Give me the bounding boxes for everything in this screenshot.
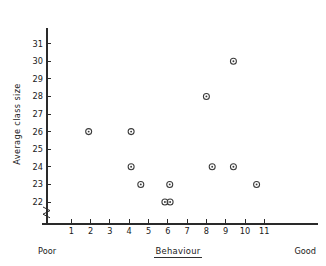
data-point-center-dot bbox=[211, 166, 213, 168]
data-point-center-dot bbox=[256, 183, 258, 185]
y-axis-tick-label: 24 bbox=[33, 162, 43, 172]
data-point-center-dot bbox=[164, 201, 166, 203]
y-axis-title: Average class size bbox=[12, 83, 22, 164]
x-axis-tick-label: 9 bbox=[223, 226, 228, 236]
data-point-center-dot bbox=[140, 183, 142, 185]
x-axis-title: Behaviour bbox=[154, 246, 201, 258]
y-axis-tick-label: 29 bbox=[33, 74, 43, 84]
plot-background bbox=[0, 0, 326, 266]
data-point-center-dot bbox=[88, 131, 90, 133]
y-axis-tick-label: 27 bbox=[33, 109, 43, 119]
x-axis-tick-label: 1 bbox=[69, 226, 74, 236]
x-axis-low-label: Poor bbox=[38, 246, 57, 256]
x-axis-high-label: Good bbox=[294, 246, 316, 256]
x-axis-tick-label: 4 bbox=[127, 226, 132, 236]
x-axis-tick-label: 3 bbox=[107, 226, 112, 236]
x-axis-title-text: Behaviour bbox=[155, 246, 200, 256]
data-point-center-dot bbox=[232, 60, 234, 62]
y-axis-tick-label: 31 bbox=[33, 39, 43, 49]
y-axis-tick-label: 26 bbox=[33, 127, 43, 137]
x-axis-tick-label: 5 bbox=[146, 226, 151, 236]
x-axis-tick-label: 10 bbox=[240, 226, 250, 236]
x-axis-tick-label: 6 bbox=[165, 226, 170, 236]
x-axis-tick-label: 11 bbox=[259, 226, 269, 236]
data-point-center-dot bbox=[169, 201, 171, 203]
data-point-center-dot bbox=[205, 95, 207, 97]
y-axis-tick-label: 28 bbox=[33, 91, 43, 101]
x-axis-tick-label: 2 bbox=[88, 226, 93, 236]
y-axis-tick-label: 30 bbox=[33, 56, 43, 66]
scatter-chart: 22232425262728293031 1234567891011 Avera… bbox=[0, 0, 326, 266]
data-point-center-dot bbox=[169, 183, 171, 185]
data-point-center-dot bbox=[130, 166, 132, 168]
y-axis-tick-label: 23 bbox=[33, 179, 43, 189]
data-point-center-dot bbox=[130, 131, 132, 133]
y-axis-tick-label: 25 bbox=[33, 144, 43, 154]
x-axis-tick-label: 7 bbox=[184, 226, 189, 236]
y-axis-tick-label: 22 bbox=[33, 197, 43, 207]
data-point-center-dot bbox=[232, 166, 234, 168]
y-axis-title-text: Average class size bbox=[12, 83, 22, 164]
chart-canvas: 22232425262728293031 1234567891011 Avera… bbox=[0, 0, 326, 266]
x-axis-tick-label: 8 bbox=[204, 226, 209, 236]
